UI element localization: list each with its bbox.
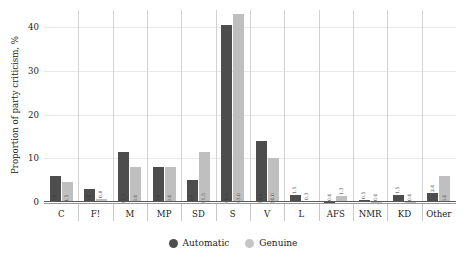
x-axis-labels: CF!MMPSDSVLAFSNMRKDOther [44,203,456,224]
bar-automatic[interactable]: 5.0 [187,180,198,202]
bar-group: 40.543.0 [216,10,250,202]
y-axis-tick-label: 40 [28,22,39,32]
legend-item[interactable]: Automatic [169,238,230,248]
y-axis-tick-label: 10 [28,153,39,163]
y-axis-title: Proportion of party criticism, % [8,0,22,210]
bar-genuine[interactable]: 6.0 [439,176,450,202]
bar-automatic[interactable]: 6.0 [50,176,61,202]
bar-genuine[interactable]: 10.0 [268,158,279,202]
bar-value-label: 0.0 [327,193,332,200]
bar-genuine[interactable]: 4.5 [62,182,73,202]
legend-item[interactable]: Genuine [245,238,297,248]
y-axis-tick-label: 30 [28,66,39,76]
bar-automatic[interactable]: 8.0 [153,167,164,202]
bar-value-label: 0.3 [305,192,310,199]
x-axis-category-label: KD [387,203,421,224]
circle-marker-genuine [245,239,254,248]
bar-group: 0.50.0 [353,10,387,202]
x-axis-category-label: S [216,203,250,224]
x-axis-category-label: MP [147,203,181,224]
bar-genuine[interactable]: 43.0 [233,14,244,202]
x-axis-category-label: Other [422,203,456,224]
bar-value-label: 1.5 [396,187,401,194]
bar-value-label: 0.0 [374,193,379,200]
bar-group: 14.010.0 [250,10,284,202]
x-axis-category-label: AFS [319,203,353,224]
y-axis-title-label: Proportion of party criticism, % [10,36,20,174]
circle-marker-automatic [169,239,178,248]
bar-automatic[interactable]: 40.5 [221,25,232,202]
bar-value-label: 0.5 [362,191,367,198]
chart-legend: AutomaticGenuine [0,238,466,248]
y-axis-tick-label: 20 [28,110,39,120]
bar-genuine[interactable]: 11.5 [199,152,210,202]
plot-area: 010203040 6.04.53.00.811.58.08.08.05.011… [44,10,456,202]
x-axis-line [44,201,456,202]
bar-group: 6.04.5 [44,10,78,202]
x-axis-category-label: C [44,203,78,224]
bar-group: 2.06.0 [422,10,456,202]
bar-group: 11.58.0 [113,10,147,202]
legend-label: Automatic [183,238,230,248]
bar-groups: 6.04.53.00.811.58.08.08.05.011.540.543.0… [44,10,456,202]
x-axis-category-label: SD [181,203,215,224]
bar-value-label: 2.0 [430,185,435,192]
y-axis-tick-label: 0 [34,197,39,207]
x-axis-category-label: L [284,203,318,224]
bar-group: 5.011.5 [181,10,215,202]
bar-value-label: 0.0 [408,193,413,200]
bar-group: 8.08.0 [147,10,181,202]
legend-label: Genuine [259,238,297,248]
bar-genuine[interactable]: 8.0 [130,167,141,202]
bar-automatic[interactable]: 11.5 [118,152,129,202]
bar-value-label: 1.5 [293,187,298,194]
chart-root: Proportion of party criticism, % 0102030… [0,0,466,267]
bar-group: 0.01.3 [319,10,353,202]
bar-genuine[interactable]: 8.0 [165,167,176,202]
bar-value-label: 1.3 [339,188,344,195]
bar-automatic[interactable]: 14.0 [256,141,267,202]
x-axis-category-label: M [113,203,147,224]
bar-group: 1.50.0 [387,10,421,202]
bar-value-label: 0.8 [99,190,104,197]
x-axis-category-label: NMR [353,203,387,224]
x-axis-category-label: F! [78,203,112,224]
bar-group: 3.00.8 [78,10,112,202]
bar-group: 1.50.3 [284,10,318,202]
x-axis-category-label: V [250,203,284,224]
